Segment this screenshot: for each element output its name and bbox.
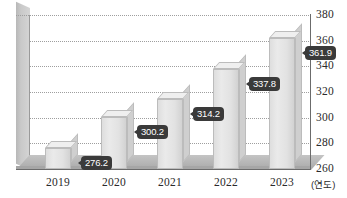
bar-side-face bbox=[239, 54, 246, 162]
x-tick-label-2022: 2022 bbox=[196, 176, 256, 188]
value-label-2022: 337.8 bbox=[249, 77, 280, 91]
y-tick-label: 380 bbox=[316, 8, 346, 20]
x-tick-label-2023: 2023 bbox=[252, 176, 312, 188]
y-tick-label: 320 bbox=[316, 85, 346, 97]
bar-chart: 380360340320300280260 276.2300.2314.2337… bbox=[0, 0, 347, 198]
y-tick-label: 260 bbox=[316, 162, 346, 174]
y-tick-label: 300 bbox=[316, 111, 346, 123]
value-label-2019: 276.2 bbox=[81, 156, 112, 170]
chart-left-wall bbox=[16, 2, 30, 170]
y-tick-label: 280 bbox=[316, 136, 346, 148]
y-axis-line bbox=[310, 14, 311, 170]
bar-side-face bbox=[295, 23, 302, 162]
y-tick-label: 340 bbox=[316, 59, 346, 71]
bar-2019 bbox=[45, 141, 71, 169]
value-label-2020: 300.2 bbox=[137, 125, 168, 139]
x-axis-unit-label: (연도) bbox=[311, 177, 335, 191]
gridline-380 bbox=[16, 15, 311, 16]
bar-2023 bbox=[269, 31, 295, 169]
x-axis-line bbox=[16, 169, 311, 170]
bar-front-face bbox=[269, 38, 295, 169]
bar-front-face bbox=[45, 148, 71, 169]
y-tick-label: 360 bbox=[316, 34, 346, 46]
value-label-2021: 314.2 bbox=[193, 107, 224, 121]
value-label-2023: 361.9 bbox=[305, 46, 336, 60]
x-tick-label-2019: 2019 bbox=[28, 176, 88, 188]
x-tick-label-2020: 2020 bbox=[84, 176, 144, 188]
x-tick-label-2021: 2021 bbox=[140, 176, 200, 188]
